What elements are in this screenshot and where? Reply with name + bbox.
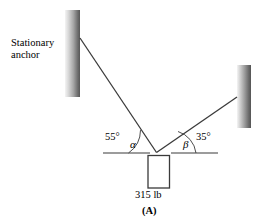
statics-figure: Stationary anchor 55° α β 35° 315 lb (A) [0,0,261,224]
panel-caption: (A) [142,205,157,217]
right-angle-value-label: 35° [196,131,211,143]
left-angle-value-label: 55° [105,131,120,143]
weight-block [148,156,170,189]
figure-canvas [0,0,261,224]
right-anchor-bar [237,65,251,128]
beta-symbol-label: β [183,138,188,151]
stationary-anchor-label: Stationary anchor [11,37,54,61]
weight-value-label: 315 lb [135,189,162,201]
right-cable [157,97,238,153]
left-anchor-bar [65,10,80,97]
stationary-anchor-label-line1: Stationary [11,37,54,49]
stationary-anchor-label-line2: anchor [11,49,54,61]
alpha-symbol-label: α [130,138,136,151]
